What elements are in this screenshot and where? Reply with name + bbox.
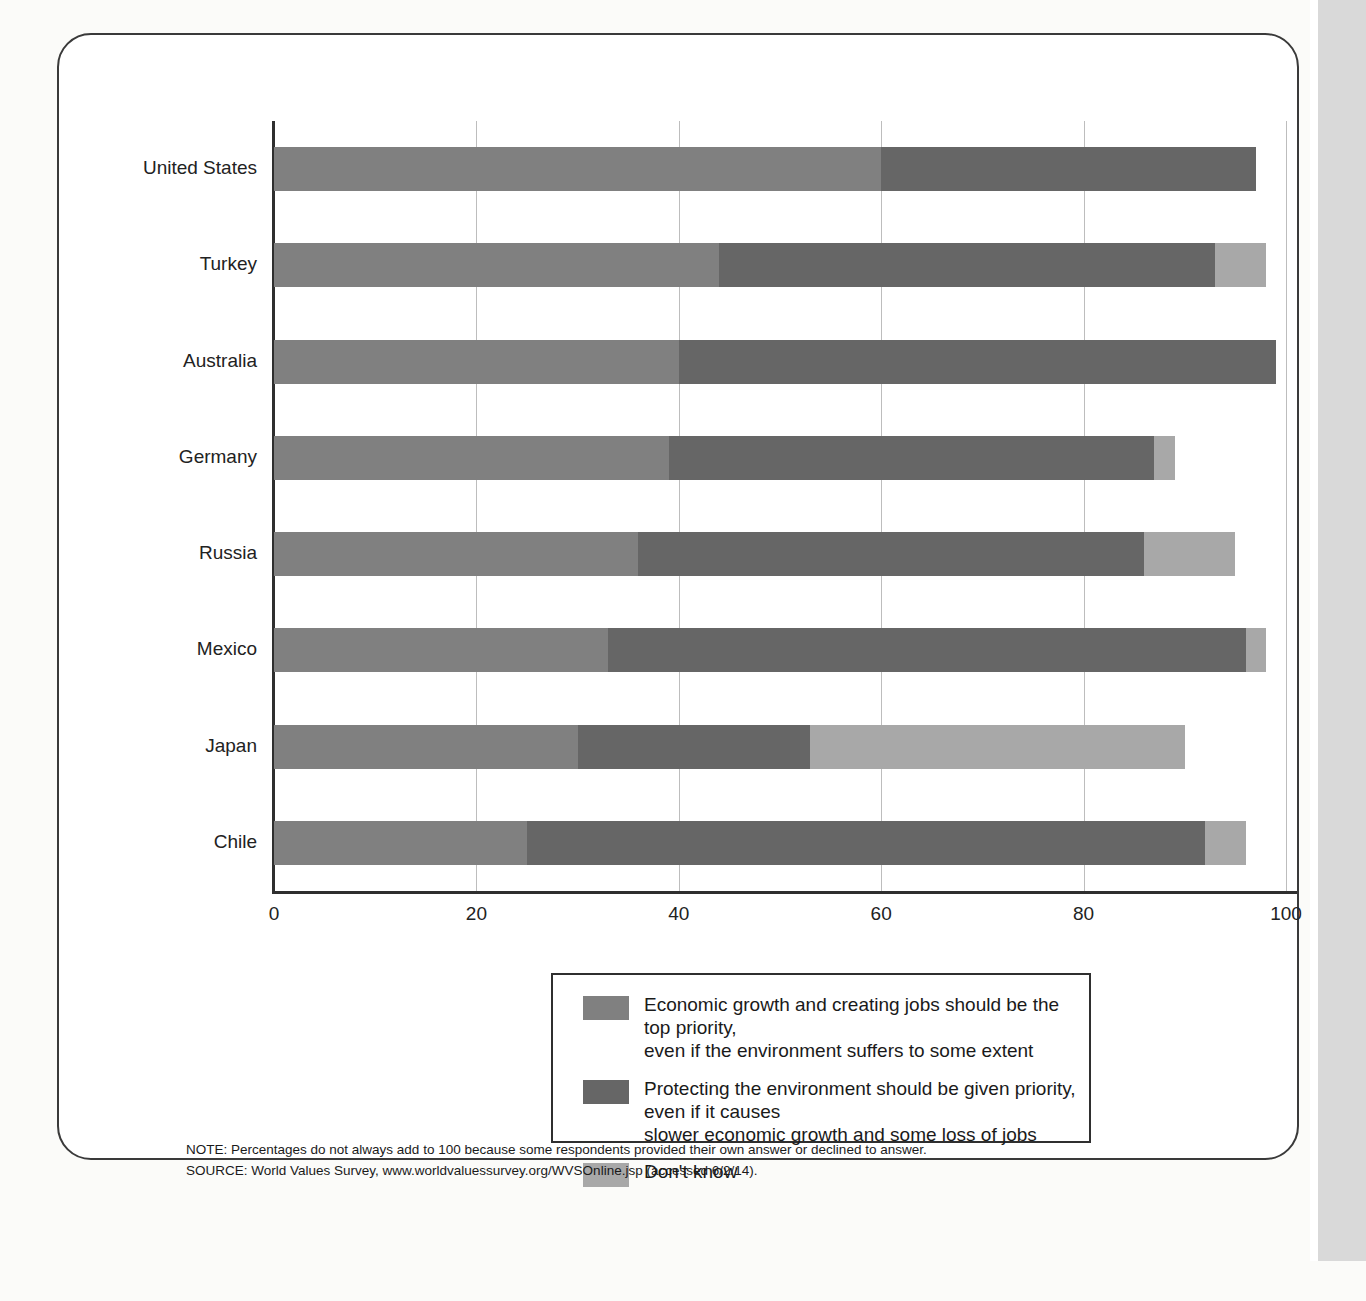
bar-segment	[1205, 821, 1245, 865]
bar-segment	[274, 147, 881, 191]
bar-row	[274, 243, 1286, 287]
legend-swatch-economic-growth	[583, 996, 629, 1020]
x-tick-label: 60	[871, 903, 892, 925]
category-label: Chile	[7, 831, 257, 853]
bar-segment	[1144, 532, 1235, 576]
category-label: Russia	[7, 542, 257, 564]
legend-item: Economic growth and creating jobs should…	[583, 993, 1089, 1063]
legend-label: Economic growth and creating jobs should…	[644, 993, 1089, 1063]
bar-row	[274, 340, 1286, 384]
x-tick-label: 0	[269, 903, 280, 925]
bar-segment	[274, 725, 578, 769]
note-line: NOTE: Percentages do not always add to 1…	[186, 1140, 1236, 1161]
category-label: Japan	[7, 735, 257, 757]
category-label: Germany	[7, 446, 257, 468]
chart-legend: Economic growth and creating jobs should…	[551, 973, 1091, 1143]
gridline	[679, 121, 680, 891]
bar-segment	[578, 725, 811, 769]
gridline	[881, 121, 882, 891]
legend-item: Protecting the environment should be giv…	[583, 1077, 1089, 1147]
bar-segment	[669, 436, 1155, 480]
bar-segment	[274, 532, 638, 576]
category-label: Australia	[7, 350, 257, 372]
bar-row	[274, 628, 1286, 672]
bar-segment	[810, 725, 1184, 769]
category-label: Turkey	[7, 253, 257, 275]
bar-segment	[608, 628, 1246, 672]
gridline	[1084, 121, 1085, 891]
bar-row	[274, 436, 1286, 480]
gridline	[1286, 121, 1287, 891]
figure-notes: NOTE: Percentages do not always add to 1…	[186, 1140, 1236, 1182]
legend-swatch-protect-environment	[583, 1080, 629, 1104]
legend-label: Protecting the environment should be giv…	[644, 1077, 1089, 1147]
bar-segment	[1154, 436, 1174, 480]
gridline	[476, 121, 477, 891]
bar-row	[274, 147, 1286, 191]
page-right-margin-gap	[1310, 0, 1318, 1261]
x-tick-label: 80	[1073, 903, 1094, 925]
bar-row	[274, 821, 1286, 865]
bar-segment	[527, 821, 1205, 865]
category-label: Mexico	[7, 638, 257, 660]
x-tick-label: 20	[466, 903, 487, 925]
bar-segment	[679, 340, 1276, 384]
bar-segment	[274, 821, 527, 865]
x-axis-line	[272, 891, 1297, 894]
page-right-margin-band	[1318, 0, 1366, 1261]
x-tick-label: 40	[668, 903, 689, 925]
bar-segment	[1215, 243, 1266, 287]
source-line: SOURCE: World Values Survey, www.worldva…	[186, 1161, 1236, 1182]
bar-row	[274, 725, 1286, 769]
figure-container: United StatesTurkeyAustraliaGermanyRussi…	[57, 33, 1299, 1160]
x-tick-label: 100	[1270, 903, 1302, 925]
bar-row	[274, 532, 1286, 576]
bar-segment	[1246, 628, 1266, 672]
bar-segment	[274, 340, 679, 384]
bar-segment	[719, 243, 1215, 287]
bar-segment	[881, 147, 1255, 191]
bar-segment	[274, 628, 608, 672]
y-axis-line	[272, 121, 275, 891]
bar-segment	[274, 243, 719, 287]
bar-segment	[638, 532, 1144, 576]
category-label: United States	[7, 157, 257, 179]
chart-plot-area: United StatesTurkeyAustraliaGermanyRussi…	[274, 121, 1286, 891]
bar-segment	[274, 436, 669, 480]
